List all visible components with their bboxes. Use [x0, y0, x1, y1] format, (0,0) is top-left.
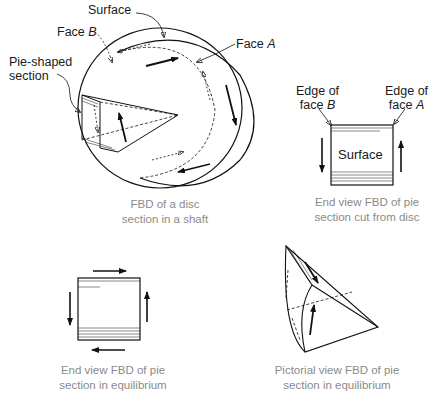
disc-caption-line2: section in a shaft — [110, 212, 220, 227]
pictorial-caption-line2: section in equilibrium — [262, 378, 412, 393]
disc-diagram — [57, 13, 254, 188]
end-view-equilibrium-caption: End view FBD of pie section in equilibri… — [48, 363, 178, 393]
edge-face-b-label: Edge of face B — [296, 84, 339, 112]
disc-caption: FBD of a disc section in a shaft — [110, 197, 220, 227]
face-a-prefix: Face — [236, 37, 267, 51]
shear-arrow-pie — [119, 113, 126, 142]
edge-b-letter: B — [327, 98, 335, 112]
pictorial-view-diagram — [285, 246, 378, 352]
end-view-equilibrium-diagram — [70, 271, 147, 350]
face-b-label: Face B — [57, 25, 97, 39]
edge-face-a-label: Edge of face A — [385, 84, 428, 112]
face-a-label: Face A — [236, 37, 276, 51]
face-b-prefix: Face — [57, 25, 88, 39]
end-view-eq-caption-line2: section in equilibrium — [48, 378, 178, 393]
edge-a-prefix: face — [389, 98, 416, 112]
shear-arrow-top — [146, 58, 178, 66]
edge-b-prefix: face — [300, 98, 327, 112]
pictorial-view-caption: Pictorial view FBD of pie section in equ… — [262, 363, 412, 393]
face-a-letter: A — [267, 37, 275, 51]
end-view-cut-caption-line1: End view FBD of pie — [302, 195, 432, 210]
surface-label: Surface — [88, 3, 131, 17]
end-view-surface-label: Surface — [338, 147, 383, 162]
pictorial-caption-line1: Pictorial view FBD of pie — [262, 363, 412, 378]
pie-section-label-line1: Pie-shaped — [9, 55, 72, 69]
shear-arrow-bottom — [178, 164, 210, 172]
edge-b-line2: face B — [296, 98, 339, 112]
face-b-circle — [78, 28, 242, 188]
end-view-cut-caption-line2: section cut from disc — [302, 210, 432, 225]
end-view-eq-caption-line1: End view FBD of pie — [48, 363, 178, 378]
shear-arrow-right — [226, 85, 236, 125]
disc-caption-line1: FBD of a disc — [110, 197, 220, 212]
edge-b-line1: Edge of — [296, 84, 339, 98]
face-b-letter: B — [88, 25, 96, 39]
edge-a-line1: Edge of — [385, 84, 428, 98]
pie-section-label-line2: section — [9, 69, 49, 83]
edge-a-letter: A — [416, 98, 424, 112]
edge-a-line2: face A — [385, 98, 428, 112]
end-view-cut-caption: End view FBD of pie section cut from dis… — [302, 195, 432, 225]
